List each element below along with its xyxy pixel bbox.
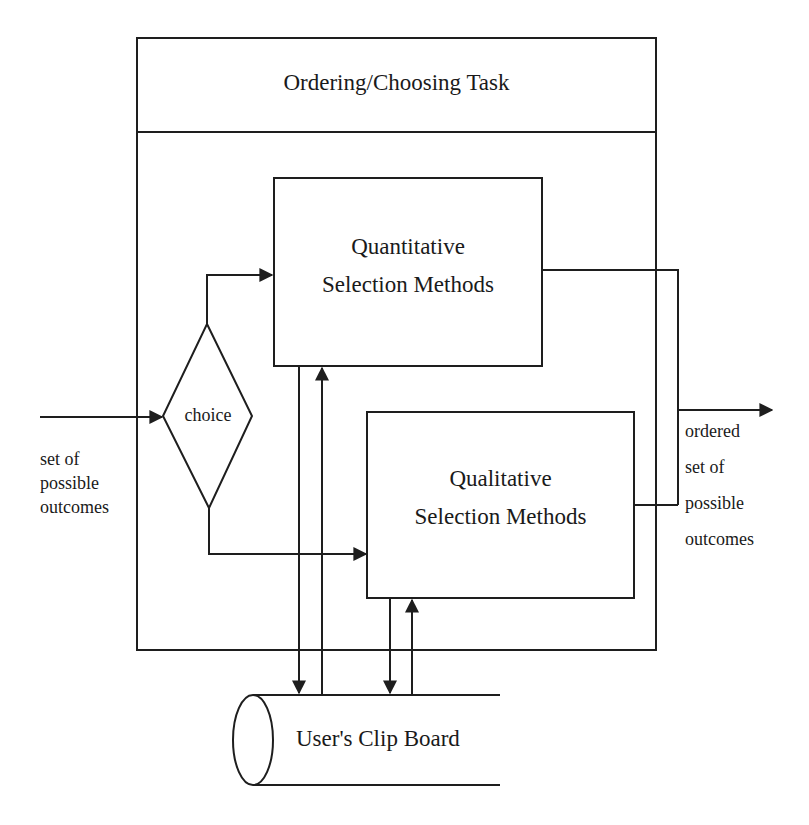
clipboard-end-cap — [233, 695, 273, 785]
input-label-line3: outcomes — [40, 495, 109, 519]
output-label-line3: possible — [685, 485, 754, 521]
input-label-line2: possible — [40, 471, 109, 495]
quantitative-label-line1: Quantitative — [274, 228, 542, 266]
input-label-line1: set of — [40, 447, 109, 471]
output-label: ordered set of possible outcomes — [685, 413, 754, 557]
qualitative-box-label: Qualitative Selection Methods — [367, 460, 634, 536]
choice-label: choice — [163, 405, 253, 426]
container-title: Ordering/Choosing Task — [137, 70, 656, 96]
clipboard-label: User's Clip Board — [296, 726, 460, 752]
quantitative-label-line2: Selection Methods — [274, 266, 542, 304]
qualitative-label-line2: Selection Methods — [367, 498, 634, 536]
qualitative-label-line1: Qualitative — [367, 460, 634, 498]
quantitative-box-label: Quantitative Selection Methods — [274, 228, 542, 304]
output-label-line2: set of — [685, 449, 754, 485]
output-label-line4: outcomes — [685, 521, 754, 557]
output-label-line1: ordered — [685, 413, 754, 449]
input-label: set of possible outcomes — [40, 447, 109, 519]
